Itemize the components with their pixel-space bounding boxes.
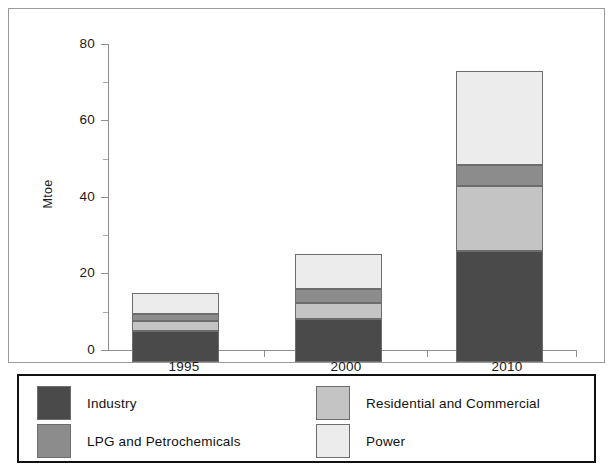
legend-label-residential-and-commercial: Residential and Commercial: [366, 396, 540, 411]
legend-label-industry: Industry: [87, 396, 137, 411]
x-tick-3: [576, 351, 577, 357]
legend-item-residential-and-commercial[interactable]: Residential and Commercial: [316, 386, 540, 420]
y-tick-major-80: [101, 44, 108, 45]
y-tick-major-0: [101, 350, 108, 351]
y-tick-minor-70: [103, 82, 108, 83]
legend-swatch-industry: [37, 386, 71, 420]
bar-2010-segment-power: [456, 71, 543, 165]
bar-1995-segment-power: [132, 293, 219, 314]
y-tick-label-20-wrap: 20: [31, 265, 95, 281]
chart-figure: Mtoe 80 60 40 20 0: [0, 0, 613, 475]
y-tick-major-60: [101, 120, 108, 121]
y-tick-label-20: 20: [35, 265, 95, 280]
y-tick-label-40-wrap: 40: [31, 189, 95, 205]
bar-1995-segment-industry: [132, 331, 219, 362]
legend-item-lpg-and-petrochemicals[interactable]: LPG and Petrochemicals: [37, 424, 241, 458]
legend-swatch-lpg-and-petrochemicals: [37, 424, 71, 458]
x-tick-2: [427, 351, 428, 357]
y-tick-label-40: 40: [35, 189, 95, 204]
y-tick-major-40: [101, 197, 108, 198]
bar-1995-segment-residential-and-commercial: [132, 321, 219, 331]
bar-2010[interactable]: [456, 21, 543, 362]
legend-swatch-power: [316, 424, 350, 458]
y-tick-label-60: 60: [35, 112, 95, 127]
bar-2010-segment-industry: [456, 251, 543, 362]
bar-2000-segment-residential-and-commercial: [295, 303, 382, 319]
y-tick-minor-50: [103, 159, 108, 160]
bar-2000-segment-lpg-and-petrochemicals: [295, 289, 382, 303]
y-tick-label-80: 80: [35, 36, 95, 51]
y-tick-label-60-wrap: 60: [31, 112, 95, 128]
legend-item-industry[interactable]: Industry: [37, 386, 137, 420]
legend-label-lpg-and-petrochemicals: LPG and Petrochemicals: [87, 434, 241, 449]
y-tick-label-0: 0: [35, 342, 95, 357]
bar-2000-segment-industry: [295, 319, 382, 362]
bar-2010-segment-residential-and-commercial: [456, 186, 543, 251]
legend-swatch-residential-and-commercial: [316, 386, 350, 420]
bar-1995-segment-lpg-and-petrochemicals: [132, 314, 219, 321]
bar-1995[interactable]: [132, 21, 219, 362]
plot-frame: Mtoe 80 60 40 20 0: [8, 8, 605, 363]
x-tick-1: [264, 351, 265, 357]
bar-2010-segment-lpg-and-petrochemicals: [456, 165, 543, 186]
y-tick-minor-10: [103, 312, 108, 313]
legend-item-power[interactable]: Power: [316, 424, 405, 458]
y-tick-label-80-wrap: 80: [31, 36, 95, 52]
y-axis-line: [108, 44, 109, 351]
y-tick-label-0-wrap: 0: [31, 342, 95, 358]
y-tick-minor-30: [103, 235, 108, 236]
bar-2000[interactable]: [295, 21, 382, 362]
legend: Industry LPG and Petrochemicals Resident…: [17, 374, 596, 463]
legend-label-power: Power: [366, 434, 405, 449]
y-tick-major-20: [101, 273, 108, 274]
bar-2000-segment-power: [295, 254, 382, 288]
